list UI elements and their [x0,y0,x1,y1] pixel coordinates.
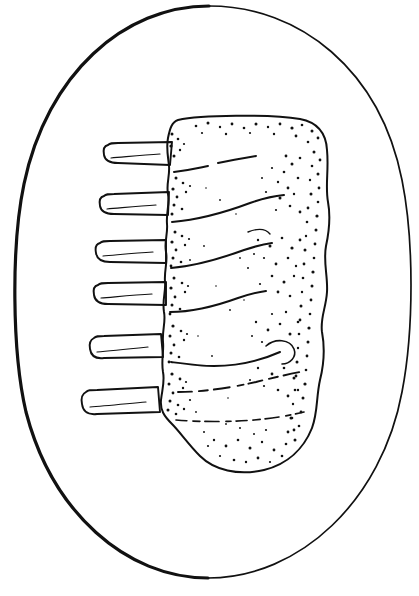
platter-outline-thin [208,6,411,578]
rib-roast-illustration: Rack of ribs on an oval platter rack of … [0,0,419,596]
figure-root: Rack of ribs on an oval platter rack of … [0,0,419,596]
rib-bone-6 [82,387,160,414]
meat-body-group [161,116,330,473]
cut-line-3 [171,243,272,268]
fat-seam [248,230,270,234]
rib-bone-5 [90,334,163,358]
cut-line-7-dashed [176,412,304,422]
platter-outline-thick [15,6,209,578]
cut-line-1 [174,166,208,172]
cut-line-4 [170,291,266,312]
meat-cut-lines [170,156,304,422]
meat-body-outline [161,116,330,473]
rib-bone-2 [100,192,169,215]
cut-line-1b [218,156,256,163]
cut-line-2 [172,195,284,222]
rib-bone-4 [94,282,166,305]
stipple-texture [167,122,322,464]
platter-group [15,6,411,578]
cut-line-6-dashed [178,372,300,392]
rib-bone-3 [96,240,166,263]
rib-bones-group [82,142,172,414]
cut-line-5 [171,352,280,366]
rib-bone-1 [104,142,172,165]
